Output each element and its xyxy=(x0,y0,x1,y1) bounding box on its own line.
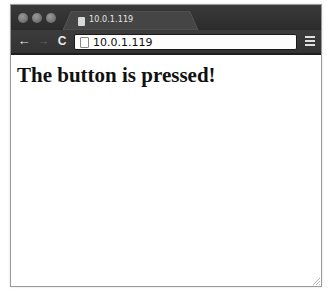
resize-grip-icon[interactable] xyxy=(312,277,320,285)
browser-toolbar: ← → C 10.0.1.119 xyxy=(11,30,321,55)
forward-arrow-icon[interactable]: → xyxy=(36,34,50,48)
address-bar[interactable]: 10.0.1.119 xyxy=(74,34,297,50)
reload-icon[interactable]: C xyxy=(55,34,69,48)
url-text[interactable]: 10.0.1.119 xyxy=(93,36,152,49)
menu-bar-line xyxy=(305,36,315,38)
browser-tab[interactable]: 10.0.1.119 xyxy=(63,11,198,30)
title-bar: 10.0.1.119 xyxy=(11,5,321,30)
page-content: The button is pressed! xyxy=(11,55,321,286)
back-arrow-icon[interactable]: ← xyxy=(17,34,31,48)
minimize-window-button[interactable] xyxy=(32,13,42,23)
hamburger-menu-icon[interactable] xyxy=(305,36,315,47)
close-window-button[interactable] xyxy=(18,13,28,23)
zoom-window-button[interactable] xyxy=(46,13,56,23)
tab-title: 10.0.1.119 xyxy=(89,15,133,24)
menu-bar-line xyxy=(305,44,315,46)
page-heading: The button is pressed! xyxy=(17,63,216,88)
page-icon xyxy=(78,17,85,26)
browser-window: 10.0.1.119 ← → C 10.0.1.119 The button i… xyxy=(10,4,322,287)
page-icon xyxy=(80,37,89,48)
menu-bar-line xyxy=(305,40,315,42)
